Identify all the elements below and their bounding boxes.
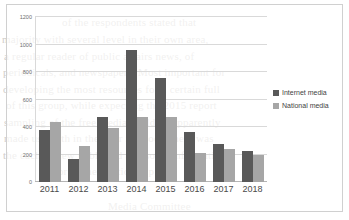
bar-group <box>35 17 64 182</box>
bar[interactable] <box>108 128 119 182</box>
bar[interactable] <box>155 78 166 182</box>
legend-swatch-internet-media <box>273 90 279 96</box>
category-axis-labels: 20112012201320142015201620172018 <box>35 184 267 194</box>
bar[interactable] <box>137 117 148 182</box>
bar[interactable] <box>213 144 224 183</box>
bar-chart: 120010008006004002000 201120122013201420… <box>6 4 343 212</box>
bar[interactable] <box>50 122 61 182</box>
bar-group <box>93 17 122 182</box>
bar[interactable] <box>253 155 264 182</box>
value-axis-tick-label: 600 <box>23 97 32 103</box>
value-axis-tick-label: 0 <box>29 179 32 185</box>
category-axis-tick-label: 2018 <box>238 184 267 194</box>
bar[interactable] <box>242 151 253 182</box>
bar[interactable] <box>224 149 235 182</box>
plot-area: 120010008006004002000 <box>35 17 267 182</box>
bar-group <box>151 17 180 182</box>
bar[interactable] <box>126 50 137 182</box>
bar[interactable] <box>166 117 177 182</box>
legend-item[interactable]: Internet media <box>273 89 329 96</box>
legend-swatch-national-media <box>273 103 279 109</box>
value-axis-tick-label: 1000 <box>20 42 32 48</box>
category-axis-tick-label: 2013 <box>93 184 122 194</box>
bar-group <box>209 17 238 182</box>
bar[interactable] <box>195 153 206 182</box>
bar[interactable] <box>97 117 108 182</box>
bar-group <box>238 17 267 182</box>
category-axis-tick-label: 2017 <box>209 184 238 194</box>
bar[interactable] <box>79 146 90 182</box>
value-axis-tick-label: 800 <box>23 69 32 75</box>
chart-legend: Internet mediaNational media <box>273 89 329 109</box>
category-axis-tick-label: 2012 <box>64 184 93 194</box>
bar[interactable] <box>184 132 195 182</box>
value-axis-tick-label: 200 <box>23 152 32 158</box>
bar[interactable] <box>39 130 50 182</box>
value-axis-tick-label: 1200 <box>20 14 32 20</box>
category-axis-tick-label: 2011 <box>35 184 64 194</box>
category-axis-tick-label: 2015 <box>151 184 180 194</box>
legend-item[interactable]: National media <box>273 102 329 109</box>
legend-item-label: National media <box>282 102 329 109</box>
bar-group <box>122 17 151 182</box>
category-axis-tick-label: 2014 <box>122 184 151 194</box>
bar-series-container <box>35 17 267 182</box>
bar[interactable] <box>68 159 79 182</box>
bar-group <box>64 17 93 182</box>
legend-item-label: Internet media <box>282 89 327 96</box>
bar-group <box>180 17 209 182</box>
value-axis-tick-label: 400 <box>23 124 32 130</box>
category-axis-tick-label: 2016 <box>180 184 209 194</box>
